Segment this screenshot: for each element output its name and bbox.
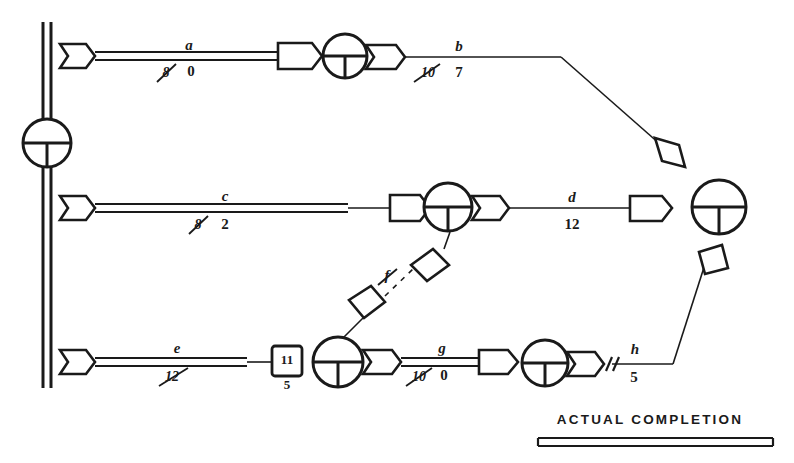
activity-c-tail-arrow — [60, 196, 95, 220]
activity-e-tail-arrow — [60, 350, 95, 374]
activity-b-tail-arrow — [366, 45, 405, 69]
activity-c-label: c — [222, 188, 229, 204]
activity-a-label: a — [185, 37, 193, 53]
activity-d-duration: 12 — [565, 216, 580, 232]
network-diagram-canvas: a 8 0 b 10 7 c 8 2 — [0, 0, 794, 463]
bottom-row-event-node-2[interactable] — [522, 340, 568, 386]
activity-f-line-upper — [444, 232, 450, 249]
activity-f-head-arrow — [411, 249, 449, 281]
activity-c-group[interactable]: c 8 2 — [60, 188, 430, 234]
activity-g-group[interactable]: g 10 0 — [363, 340, 518, 386]
activity-h-label: h — [631, 341, 639, 357]
activity-b-label: b — [455, 38, 463, 54]
legend-label: ACTUAL COMPLETION — [557, 412, 743, 427]
left-spine — [43, 22, 51, 388]
activity-g-revised-duration: 0 — [440, 367, 448, 383]
activity-b-head-arrow — [655, 138, 685, 167]
activity-b-revised-duration: 7 — [455, 64, 463, 80]
activity-g-label: g — [437, 340, 446, 356]
activity-e-label: e — [174, 340, 181, 356]
activity-g-tail-arrow — [363, 350, 401, 374]
legend-symbol-double-line-bar — [538, 438, 773, 446]
top-row-event-node[interactable] — [323, 34, 367, 78]
start-event-node[interactable] — [23, 119, 71, 167]
activity-d-tail-arrow — [472, 196, 509, 220]
activity-d-head-arrow — [630, 196, 672, 221]
activity-f-line-lower — [343, 318, 363, 338]
finish-event-node[interactable] — [692, 180, 746, 234]
activity-h-group[interactable]: h 5 — [567, 245, 728, 385]
activity-a-tail-arrow — [60, 44, 95, 68]
legend: ACTUAL COMPLETION — [538, 412, 773, 446]
activity-d-label: d — [568, 189, 576, 205]
activity-e-group[interactable]: e 12 — [60, 340, 272, 386]
activity-g-head-arrow — [479, 350, 518, 374]
activity-h-duration: 5 — [630, 369, 638, 385]
activity-c-revised-duration: 2 — [221, 216, 229, 232]
status-box-value: 11 — [281, 352, 293, 367]
activity-h-head-arrow — [699, 245, 728, 274]
activity-a-group[interactable]: a 8 0 — [60, 37, 322, 82]
activity-f-group[interactable]: f — [343, 232, 450, 338]
activity-b-line-diagonal — [561, 57, 661, 145]
activity-d-group[interactable]: d 12 — [472, 189, 672, 232]
middle-row-event-node[interactable] — [424, 183, 472, 231]
activity-h-tail-arrow — [567, 352, 604, 376]
activity-a-revised-duration: 0 — [187, 63, 195, 79]
activity-f-tail-arrow — [349, 286, 385, 318]
status-box-sub-value: 5 — [284, 377, 291, 392]
network-diagram-svg: a 8 0 b 10 7 c 8 2 — [0, 0, 794, 463]
activity-h-line-diagonal — [673, 258, 707, 364]
status-box-e[interactable]: 11 5 — [272, 346, 302, 392]
activity-b-group[interactable]: b 10 7 — [366, 38, 685, 167]
bottom-row-event-node-1[interactable] — [313, 337, 363, 387]
activity-a-head-arrow — [278, 43, 322, 69]
